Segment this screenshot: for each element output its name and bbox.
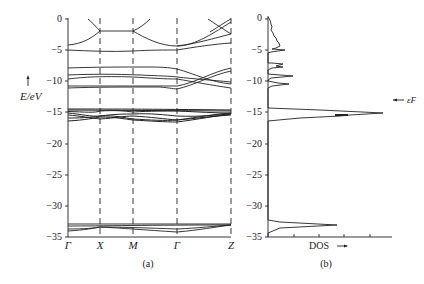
energy-axis-label: E/eV: [19, 75, 43, 102]
arrowhead-icon: [393, 99, 397, 102]
band-upper-1: [68, 22, 231, 46]
svg-text:−10: −10: [46, 75, 62, 86]
svg-text:−35: −35: [46, 231, 62, 242]
band-upper-3: [133, 19, 150, 31]
band-minus5: [68, 43, 231, 51]
svg-text:−20: −20: [46, 138, 62, 149]
svg-text:−25: −25: [246, 169, 262, 180]
svg-text:εF: εF: [407, 95, 417, 105]
arrowhead-icon: [344, 245, 348, 248]
band-upper-6: [210, 19, 231, 32]
svg-text:−15: −15: [46, 106, 62, 117]
svg-text:Γ: Γ: [64, 239, 72, 251]
svg-text:Γ: Γ: [173, 239, 181, 251]
y-tick-labels-b: 0 −5 −10 −15 −20 −25 −30 −35: [246, 12, 262, 242]
arrowhead-icon: [27, 75, 30, 79]
fermi-level-marker: εF: [393, 95, 417, 105]
svg-text:DOS: DOS: [309, 240, 329, 251]
svg-text:E/eV: E/eV: [19, 90, 43, 102]
svg-text:X: X: [96, 239, 105, 251]
band-upper-4: [177, 34, 231, 46]
svg-text:−10: −10: [246, 75, 262, 86]
svg-text:−35: −35: [246, 231, 262, 242]
kpoint-dashed-lines: [100, 18, 231, 237]
svg-text:−5: −5: [51, 44, 62, 55]
svg-text:−20: −20: [246, 138, 262, 149]
figure: 0 −5 −10 −15 −20 −25 −30 −35 E/eV Γ X M …: [0, 0, 424, 284]
svg-text:−30: −30: [246, 200, 262, 211]
y-tick-labels-a: 0 −5 −10 −15 −20 −25 −30 −35: [46, 13, 62, 242]
panel-a-caption: (a): [142, 258, 153, 270]
panel-b-caption: (b): [320, 258, 332, 270]
dos-panel: [265, 16, 392, 237]
dos-curve: [268, 17, 383, 237]
svg-text:M: M: [127, 239, 138, 251]
svg-text:−5: −5: [251, 44, 262, 55]
svg-text:−30: −30: [46, 200, 62, 211]
band-upper-2: [88, 19, 100, 31]
kpoint-labels: Γ X M Γ Z: [64, 239, 235, 251]
svg-text:Z: Z: [228, 239, 235, 251]
dos-axis-label: DOS: [309, 240, 348, 251]
svg-text:−15: −15: [246, 106, 262, 117]
svg-text:0: 0: [257, 12, 262, 23]
svg-text:0: 0: [57, 13, 62, 24]
band-cluster-minus15: [68, 109, 231, 122]
band-cluster-minus33: [68, 224, 231, 232]
svg-text:−25: −25: [46, 169, 62, 180]
band-structure-panel: [65, 18, 231, 237]
